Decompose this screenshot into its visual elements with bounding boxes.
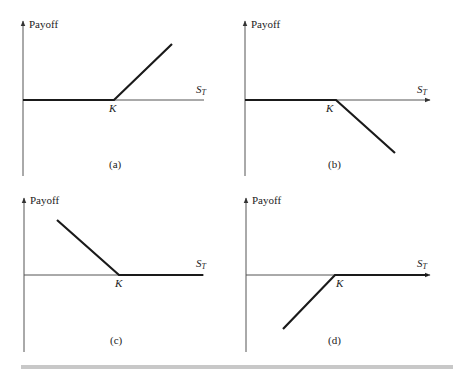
y-axis-label: Payoff: [252, 194, 281, 206]
x-axis-label: ST: [196, 83, 207, 97]
strike-label: K: [335, 277, 344, 289]
strike-label: K: [108, 102, 117, 114]
panel-b: Payoff ST K (b): [245, 18, 430, 176]
panel-a: Payoff ST K (a): [23, 18, 207, 176]
payoff-line: [23, 44, 172, 100]
panel-caption: (d): [328, 334, 341, 347]
strike-label: K: [325, 102, 334, 114]
panel-d: Payoff ST K (d): [246, 194, 430, 352]
y-axis-label: Payoff: [29, 18, 58, 30]
panel-caption: (a): [109, 158, 122, 171]
strike-label: K: [114, 277, 123, 289]
panel-caption: (c): [110, 334, 123, 347]
x-axis-label: ST: [417, 257, 428, 271]
y-axis-label: Payoff: [251, 18, 280, 30]
bottom-rule: [21, 365, 453, 369]
panel-c: Payoff ST K (c): [24, 194, 207, 352]
payoff-line: [245, 100, 395, 153]
payoff-line: [57, 220, 203, 275]
y-axis-label: Payoff: [30, 194, 59, 206]
payoff-line: [283, 275, 428, 329]
panel-caption: (b): [328, 158, 341, 171]
x-axis-label: ST: [196, 257, 207, 271]
x-axis-label: ST: [417, 83, 428, 97]
payoff-diagrams: Payoff ST K (a) Payoff ST K (b) Payoff S…: [0, 0, 453, 377]
